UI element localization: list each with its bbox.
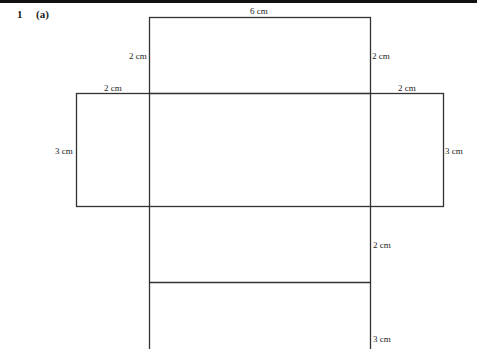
label-top-width: 6 cm — [250, 6, 268, 16]
cuboid-net-diagram — [0, 0, 477, 349]
label-right-flap-width: 2 cm — [398, 83, 416, 93]
label-lower-face-height: 2 cm — [373, 240, 391, 250]
label-right-flap-height: 3 cm — [445, 146, 463, 156]
label-left-flap-width: 2 cm — [104, 83, 122, 93]
top-face — [150, 18, 371, 94]
middle-band — [77, 94, 444, 207]
label-bottom-face-height: 3 cm — [373, 334, 391, 344]
label-top-left-height: 2 cm — [129, 51, 147, 61]
label-left-flap-height: 3 cm — [55, 146, 73, 156]
label-top-right-height: 2 cm — [372, 51, 390, 61]
